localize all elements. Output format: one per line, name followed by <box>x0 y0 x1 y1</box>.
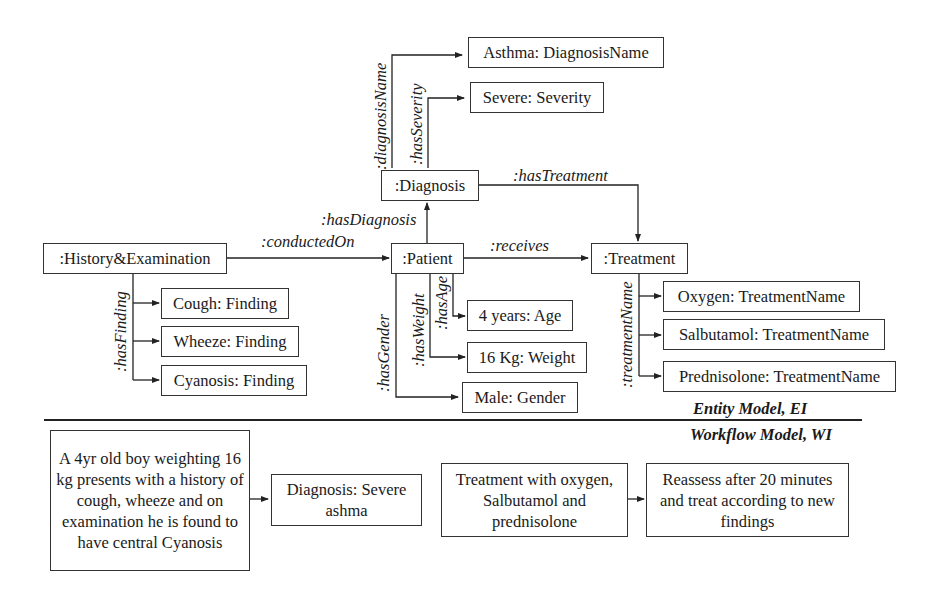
node-label: Cough: Finding <box>173 294 277 314</box>
node-label: Cyanosis: Finding <box>174 371 295 391</box>
node-age[interactable]: 4 years: Age <box>467 300 573 331</box>
edge-label-has-finding: :hasFinding <box>112 291 130 372</box>
section-divider <box>44 419 862 421</box>
node-label: Prednisolone: TreatmentName <box>679 367 880 387</box>
node-diagnosis-name[interactable]: Asthma: DiagnosisName <box>468 37 664 68</box>
workflow-step-treatment[interactable]: Treatment with oxygen, Salbutamol and pr… <box>441 463 628 537</box>
node-severity[interactable]: Severe: Severity <box>470 82 604 113</box>
workflow-step-text: Reassess after 20 minutes and treat acco… <box>651 469 844 532</box>
edge-label-has-age: :hasAge <box>433 276 451 330</box>
diagram-canvas: :History&Examination :Patient :Diagnosis… <box>0 0 938 601</box>
workflow-step-diagnosis[interactable]: Diagnosis: Severe ashma <box>271 474 422 526</box>
node-label: Wheeze: Finding <box>173 332 286 352</box>
node-label: :Treatment <box>604 249 676 269</box>
edge-label-receives: :receives <box>490 237 549 255</box>
node-label: 4 years: Age <box>479 306 561 326</box>
node-treatment[interactable]: :Treatment <box>591 243 688 274</box>
edge-label-has-treatment: :hasTreatment <box>513 167 608 185</box>
workflow-step-text: A 4yr old boy weighting 16 kg presents w… <box>55 448 245 553</box>
node-patient[interactable]: :Patient <box>391 243 464 274</box>
node-cough[interactable]: Cough: Finding <box>161 288 289 319</box>
workflow-step-reassess[interactable]: Reassess after 20 minutes and treat acco… <box>646 463 849 537</box>
node-salbutamol[interactable]: Salbutamol: TreatmentName <box>663 319 885 350</box>
node-label: Oxygen: TreatmentName <box>678 287 845 307</box>
node-prednisolone[interactable]: Prednisolone: TreatmentName <box>663 361 896 392</box>
edge-label-has-severity: :hasSeverity <box>408 83 426 165</box>
node-label: Severe: Severity <box>483 88 592 108</box>
workflow-step-text: Diagnosis: Severe ashma <box>276 479 417 521</box>
node-label: :Diagnosis <box>395 176 466 196</box>
workflow-step-text: Treatment with oxygen, Salbutamol and pr… <box>446 469 623 532</box>
section-label-entity-model: Entity Model, EI <box>693 399 807 419</box>
node-label: :History&Examination <box>59 249 210 269</box>
node-gender[interactable]: Male: Gender <box>462 382 578 413</box>
edge-label-diagnosis-name: :diagnosisName <box>372 63 390 170</box>
node-label: 16 Kg: Weight <box>479 348 575 368</box>
node-oxygen[interactable]: Oxygen: TreatmentName <box>663 281 860 312</box>
node-wheeze[interactable]: Wheeze: Finding <box>161 326 299 357</box>
node-cyanosis[interactable]: Cyanosis: Finding <box>161 365 307 396</box>
node-label: Salbutamol: TreatmentName <box>679 325 869 345</box>
edge-label-has-gender: :hasGender <box>375 314 393 392</box>
edge-label-conducted-on: :conductedOn <box>261 233 354 251</box>
node-label: :Patient <box>402 249 452 269</box>
node-diagnosis[interactable]: :Diagnosis <box>381 170 479 201</box>
node-label: Male: Gender <box>474 388 565 408</box>
section-label-workflow-model: Workflow Model, WI <box>690 425 832 445</box>
node-history-examination[interactable]: :History&Examination <box>43 243 227 274</box>
edge-label-treatment-name: :treatmentName <box>618 281 636 388</box>
workflow-step-presentation[interactable]: A 4yr old boy weighting 16 kg presents w… <box>50 430 250 571</box>
node-label: Asthma: DiagnosisName <box>483 43 648 63</box>
edge-label-has-diagnosis: :hasDiagnosis <box>321 211 416 229</box>
node-weight[interactable]: 16 Kg: Weight <box>467 342 587 373</box>
edge-label-has-weight: :hasWeight <box>410 293 428 367</box>
